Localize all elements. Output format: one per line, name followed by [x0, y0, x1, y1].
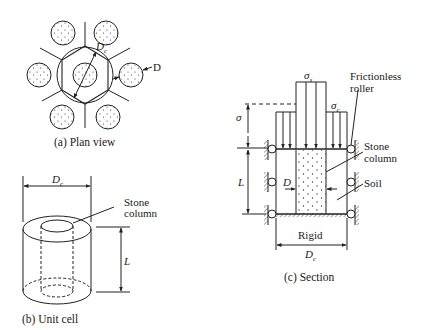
soil-stress-arrows	[283, 112, 340, 148]
plan-d-label: D	[153, 61, 161, 73]
sigma-s-label: σs	[304, 69, 312, 86]
unit-cell-caption: (b) Unit cell	[22, 313, 78, 325]
section-caption: (c) Section	[284, 271, 334, 283]
d-leader-arrow	[143, 67, 152, 70]
stone-column	[296, 150, 326, 214]
plan-view	[27, 21, 152, 129]
rigid-base-hatch	[276, 214, 347, 217]
rigid-label: Rigid	[298, 229, 322, 241]
stone-stress-arrows	[306, 82, 316, 148]
roller-leader	[351, 90, 358, 145]
soil-leader	[337, 184, 363, 200]
unit-cell-l-label: L	[124, 255, 130, 267]
roller-label: roller	[350, 82, 374, 94]
stone-column-leader	[326, 152, 363, 172]
d-leader-arrow-2	[113, 77, 119, 79]
unit-cell	[23, 176, 130, 304]
outer-bottom-back	[23, 278, 91, 291]
outer-bottom-front	[23, 291, 91, 304]
stone-stress-block	[296, 82, 326, 149]
section-d-label: D	[283, 176, 291, 188]
unit-cell-column-label: column	[124, 207, 157, 219]
soil-stress-block	[276, 112, 296, 149]
soil-label: Soil	[364, 177, 382, 189]
inner-bottom-ellipse	[41, 285, 73, 297]
figure-canvas	[0, 0, 439, 330]
plan-view-caption: (a) Plan view	[54, 136, 115, 148]
unit-cell-dc-label: Dc	[52, 173, 63, 190]
stone-column-leader	[73, 207, 114, 223]
section-l-label: L	[238, 176, 244, 188]
frictionless-label: Frictionless	[350, 70, 401, 82]
section-stone-label: Stone	[364, 140, 389, 152]
section-view	[237, 82, 363, 250]
sigma-label: σ	[236, 111, 241, 123]
section-dc-label: Dc	[305, 248, 316, 265]
section-column-label: column	[364, 152, 397, 164]
inner-top-ellipse	[41, 220, 73, 232]
plan-dc-label: Dc	[96, 40, 107, 57]
sigma-c-label: σc	[331, 99, 340, 116]
